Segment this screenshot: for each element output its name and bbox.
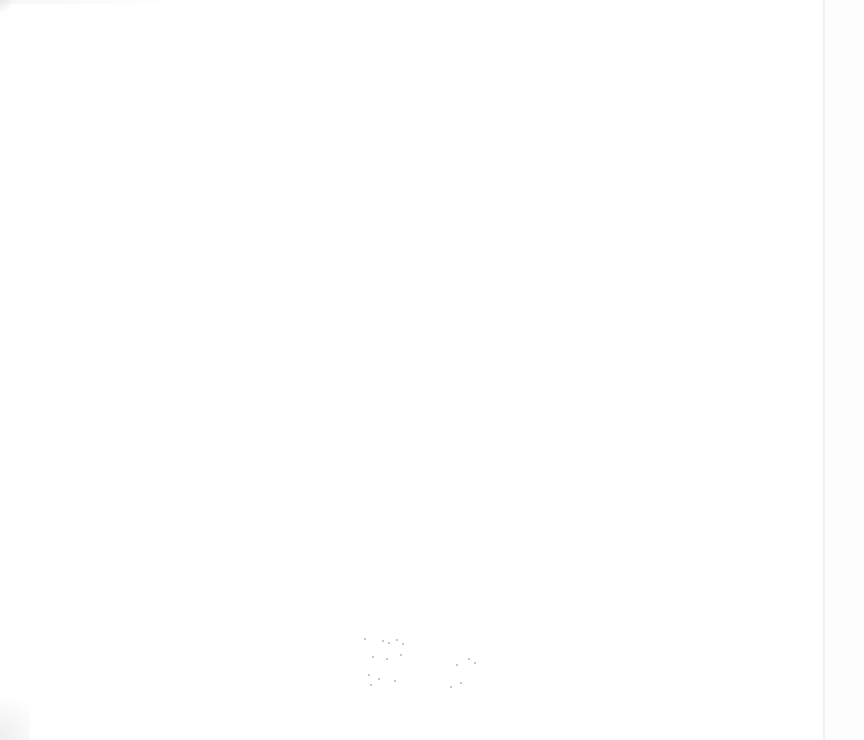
page-edge-divider [823,0,825,740]
corner-shadow [0,0,14,14]
scan-noise-specks [360,634,500,694]
blank-document-page [0,0,824,740]
corner-shadow [0,680,30,740]
right-margin [824,0,864,740]
faded-header-strip [0,0,180,4]
